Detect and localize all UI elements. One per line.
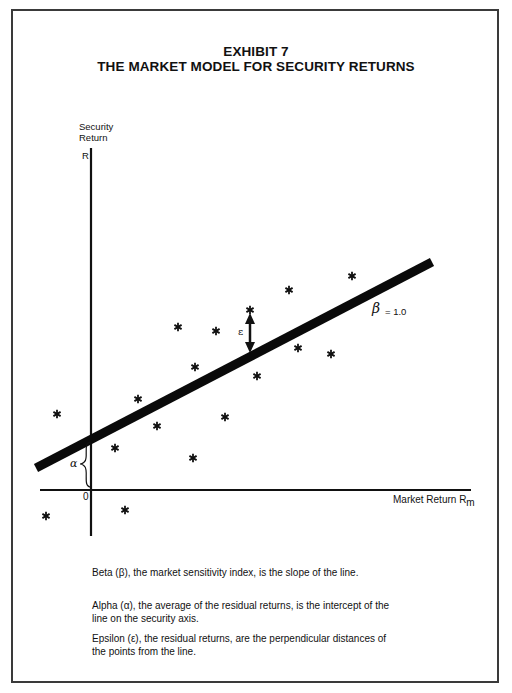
x-axis-subscript: m [466, 497, 474, 508]
epsilon-arrow-icon [245, 313, 255, 353]
y-axis-symbol: R [82, 150, 89, 161]
beta-symbol: β [372, 303, 380, 314]
data-point-asterisk-icon [348, 272, 355, 280]
data-point-asterisk-icon [121, 506, 128, 514]
data-point-asterisk-icon [327, 350, 334, 358]
data-point-asterisk-icon [53, 410, 60, 418]
data-point-asterisk-icon [221, 413, 228, 421]
data-point-asterisk-icon [294, 344, 301, 352]
data-point-asterisk-icon [253, 372, 260, 380]
data-point-asterisk-icon [134, 395, 141, 403]
axes [40, 148, 471, 536]
origin-label: 0 [83, 491, 89, 502]
y-axis-label-line1: Security [79, 121, 113, 132]
caption-epsilon: Epsilon (ε), the residual returns, are t… [92, 633, 392, 658]
data-points [42, 272, 355, 520]
data-point-asterisk-icon [212, 327, 219, 335]
y-axis-label-line2: Return [79, 132, 108, 143]
data-point-asterisk-icon [191, 363, 198, 371]
x-axis-label-text: Market Return R [393, 494, 466, 505]
data-point-asterisk-icon [246, 306, 253, 314]
data-point-asterisk-icon [174, 323, 181, 331]
caption-alpha: Alpha (α), the average of the residual r… [92, 600, 392, 625]
regression-line [36, 262, 432, 468]
data-point-asterisk-icon [111, 444, 118, 452]
data-point-asterisk-icon [285, 286, 292, 294]
x-axis-label: Market Return Rm [393, 494, 475, 508]
data-point-asterisk-icon [189, 454, 196, 462]
beta-value: = 1.0 [385, 306, 406, 317]
alpha-label: α [70, 458, 77, 469]
epsilon-label: ε [238, 326, 243, 337]
data-point-asterisk-icon [42, 512, 49, 520]
caption-beta: Beta (β), the market sensitivity index, … [92, 567, 392, 580]
chart-canvas [0, 0, 512, 693]
data-point-asterisk-icon [153, 422, 160, 430]
